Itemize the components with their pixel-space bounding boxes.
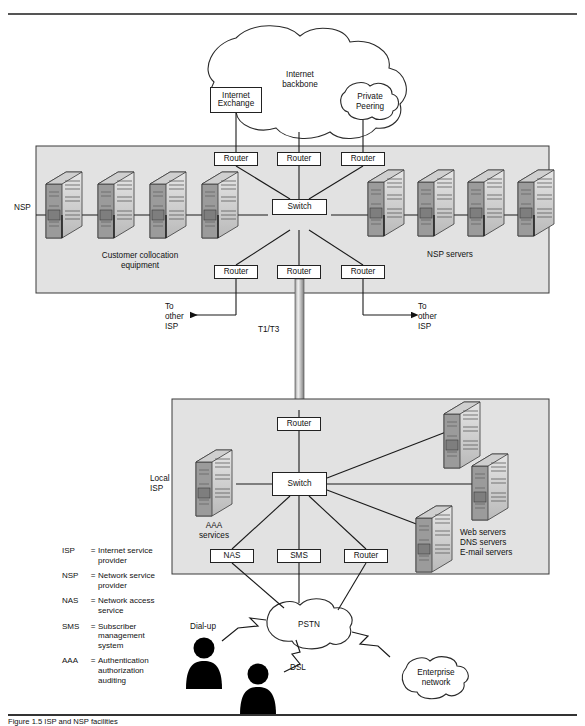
nsp-switch[interactable]: Switch bbox=[272, 199, 327, 215]
dialup-label: Dial-up bbox=[190, 622, 234, 632]
nas-box[interactable]: NAS bbox=[210, 549, 254, 563]
legend-equals: = bbox=[88, 596, 98, 615]
nsp-router-bottom-1[interactable]: Router bbox=[214, 265, 258, 279]
legend-equals: = bbox=[88, 622, 98, 651]
trunk-label: T1/T3 bbox=[258, 325, 298, 335]
legend-row: ISP = Internet service provider bbox=[62, 546, 192, 565]
legend: ISP = Internet service provider NSP = Ne… bbox=[62, 546, 192, 691]
local-isp-zone-label: Local ISP bbox=[150, 474, 182, 494]
internet-backbone-label: Internet backbone bbox=[250, 70, 350, 90]
dsl-label: DSL bbox=[290, 663, 320, 673]
legend-row: SMS = Subscriber management system bbox=[62, 622, 192, 651]
figure-caption: Figure 1.5 ISP and NSP facilities bbox=[8, 717, 118, 726]
local-isp-router-top[interactable]: Router bbox=[277, 417, 321, 431]
local-isp-servers-label: Web servers DNS servers E-mail servers bbox=[460, 528, 550, 558]
bottom-rule bbox=[8, 714, 577, 716]
legend-definition: Authentication authorization auditing bbox=[98, 656, 192, 685]
customer-collocation-label: Customer collocation equipment bbox=[78, 251, 202, 271]
pstn-label: PSTN bbox=[284, 620, 334, 630]
legend-abbr: ISP bbox=[62, 546, 88, 565]
legend-row: AAA = Authentication authorization audit… bbox=[62, 656, 192, 685]
legend-abbr: AAA bbox=[62, 656, 88, 685]
to-other-isp-left-label: To other ISP bbox=[165, 302, 205, 332]
legend-equals: = bbox=[88, 571, 98, 590]
legend-abbr: NSP bbox=[62, 571, 88, 590]
legend-definition: Network access service bbox=[98, 596, 192, 615]
sms-box[interactable]: SMS bbox=[277, 549, 321, 563]
nsp-router-bottom-3[interactable]: Router bbox=[341, 265, 385, 279]
figure-canvas: Internet backbone Private Peering Intern… bbox=[0, 0, 585, 726]
legend-row: NAS = Network access service bbox=[62, 596, 192, 615]
legend-definition: Network service provider bbox=[98, 571, 192, 590]
enterprise-link bbox=[352, 632, 390, 657]
local-isp-router-access[interactable]: Router bbox=[344, 549, 388, 563]
private-peering-label: Private Peering bbox=[340, 92, 400, 112]
nsp-router-top-3[interactable]: Router bbox=[341, 152, 385, 166]
nsp-zone-label: NSP bbox=[14, 203, 44, 213]
to-other-isp-right-label: To other ISP bbox=[418, 302, 458, 332]
legend-equals: = bbox=[88, 546, 98, 565]
legend-row: NSP = Network service provider bbox=[62, 571, 192, 590]
local-isp-switch[interactable]: Switch bbox=[272, 472, 327, 496]
nsp-router-bottom-2[interactable]: Router bbox=[277, 265, 321, 279]
aaa-services-label: AAA services bbox=[186, 521, 242, 541]
internet-exchange-box[interactable]: Internet Exchange bbox=[210, 87, 262, 113]
legend-abbr: NAS bbox=[62, 596, 88, 615]
nsp-router-top-1[interactable]: Router bbox=[214, 152, 258, 166]
legend-definition: Subscriber management system bbox=[98, 622, 192, 651]
t1-t3-trunk bbox=[295, 279, 304, 410]
legend-definition: Internet service provider bbox=[98, 546, 192, 565]
legend-equals: = bbox=[88, 656, 98, 685]
legend-abbr: SMS bbox=[62, 622, 88, 651]
dsl-subscriber bbox=[240, 664, 276, 716]
nsp-servers-label: NSP servers bbox=[410, 250, 490, 260]
enterprise-network-label: Enterprise network bbox=[404, 668, 468, 688]
nsp-router-top-2[interactable]: Router bbox=[277, 152, 321, 166]
